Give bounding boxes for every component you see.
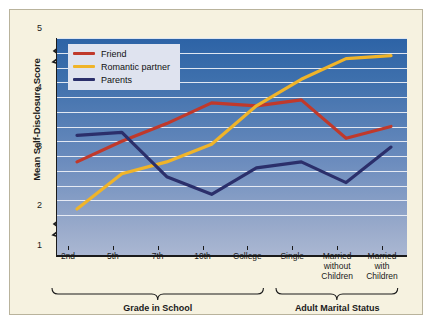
legend-item: Romantic partner	[73, 60, 170, 73]
chart-figure: Mean Self-Disclosure Score 12345 FriendR…	[0, 0, 432, 324]
x-tick-mark	[203, 246, 204, 250]
x-tick-mark	[113, 246, 114, 250]
legend-swatch	[73, 78, 95, 82]
legend-label: Romantic partner	[101, 62, 170, 72]
group-label: Grade in School	[50, 303, 265, 313]
x-tick-mark	[382, 246, 383, 250]
group-label: Adult Marital Status	[274, 303, 400, 313]
legend-label: Friend	[101, 49, 127, 59]
legend-swatch	[73, 52, 95, 56]
legend-item: Parents	[73, 73, 170, 86]
y-tick-label: 1	[26, 240, 42, 250]
y-tick-label: 2	[26, 200, 42, 210]
x-tick-mark	[158, 246, 159, 250]
chart-panel: Mean Self-Disclosure Score 12345 FriendR…	[9, 9, 423, 315]
series-line-friend	[77, 100, 391, 162]
legend-label: Parents	[101, 75, 132, 85]
y-axis-label: Mean Self-Disclosure Score	[31, 50, 42, 190]
x-tick-mark	[292, 246, 293, 250]
group-bracket	[50, 287, 265, 301]
y-tick-label: 5	[26, 23, 42, 33]
x-tick-mark	[337, 246, 338, 250]
x-tick-mark	[247, 246, 248, 250]
group-bracket	[274, 287, 400, 301]
y-tick-label: 4	[26, 82, 42, 92]
y-tick-label: 3	[26, 141, 42, 151]
legend-swatch	[73, 65, 95, 69]
legend: FriendRomantic partnerParents	[68, 44, 180, 90]
x-tick-label: MarriedwithChildren	[353, 251, 411, 281]
x-tick-mark	[68, 246, 69, 250]
legend-item: Friend	[73, 47, 170, 60]
